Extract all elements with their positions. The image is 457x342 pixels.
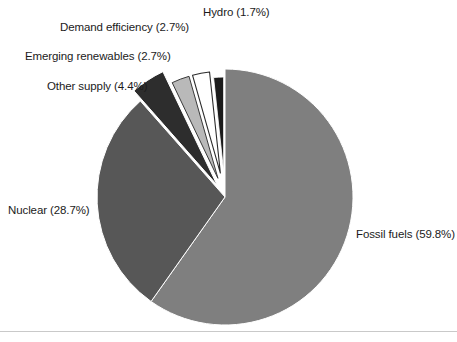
pie-label-emerging-renewables: Emerging renewables (2.7%) <box>25 50 171 63</box>
pie-label-hydro: Hydro (1.7%) <box>203 6 270 19</box>
pie-label-fossil-fuels: Fossil fuels (59.8%) <box>356 228 455 241</box>
pie-label-other-supply: Other supply (4.4%) <box>47 80 147 93</box>
figure-bottom-rule <box>0 331 457 332</box>
pie-label-nuclear: Nuclear (28.7%) <box>8 204 90 217</box>
pie-chart-figure: Hydro (1.7%) Demand efficiency (2.7%) Em… <box>0 0 457 342</box>
pie-label-demand-efficiency: Demand efficiency (2.7%) <box>60 21 189 34</box>
pie-slices <box>97 69 353 325</box>
